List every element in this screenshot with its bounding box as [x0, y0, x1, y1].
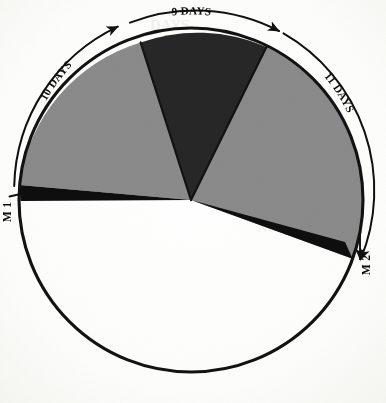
print-grain-overlay: [0, 0, 386, 403]
figure-root: DAYS NOTE: [0, 0, 386, 403]
circle-diagram: DAYS NOTE: [0, 0, 386, 403]
